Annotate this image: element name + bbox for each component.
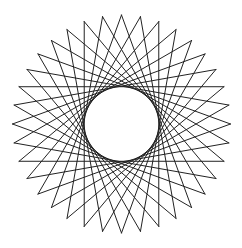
background xyxy=(0,0,242,248)
star-polygon-diagram xyxy=(0,0,242,248)
